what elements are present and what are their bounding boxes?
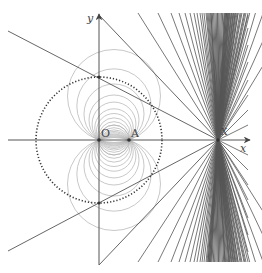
point-x — [216, 138, 220, 142]
point-x-label: X — [221, 128, 227, 137]
tangent-line-upper-left — [8, 31, 218, 140]
x-axis-label: x — [240, 143, 246, 154]
fan-lines — [138, 13, 262, 262]
point-bottom — [97, 201, 100, 204]
apollonian-circle — [68, 50, 161, 143]
apollonian-circle — [77, 69, 151, 143]
apollonian-circle — [77, 137, 151, 211]
point-top — [97, 75, 100, 78]
apollonian-circle — [68, 138, 161, 231]
tangent-line-lower-left — [8, 140, 218, 251]
point-a-label: A — [131, 128, 139, 139]
origin-label: O — [101, 128, 110, 139]
y-axis-label: y — [87, 13, 93, 24]
